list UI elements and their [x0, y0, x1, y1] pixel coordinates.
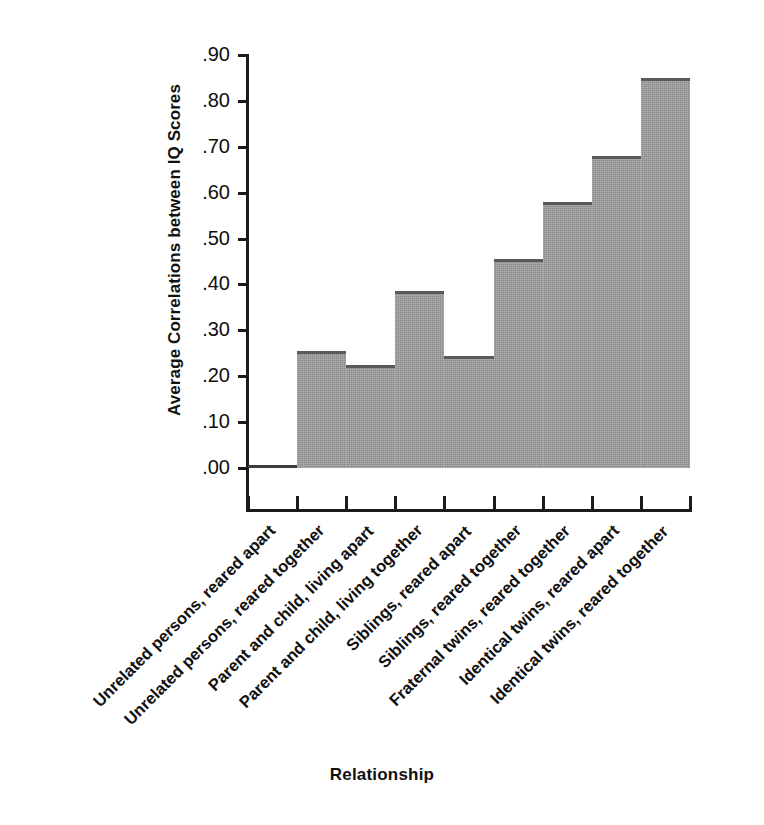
- x-axis-category-label: Unrelated persons, reared together: [121, 522, 328, 729]
- y-axis-tick: [238, 329, 248, 332]
- x-axis-tick: [591, 496, 594, 510]
- y-axis-tick: [238, 192, 248, 195]
- y-axis-tick: [238, 100, 248, 103]
- y-axis-tick-label: .30: [174, 319, 230, 339]
- plot-area: [248, 55, 690, 468]
- y-axis-tick: [238, 283, 248, 286]
- bar: [444, 356, 493, 468]
- y-axis-tick-label: .00: [174, 457, 230, 477]
- y-axis-tick-label: .70: [174, 136, 230, 156]
- bar: [592, 156, 641, 468]
- x-axis-tick: [394, 496, 397, 510]
- x-axis-tick: [689, 496, 692, 510]
- y-axis-tick-label: .50: [174, 228, 230, 248]
- bar: [346, 365, 395, 468]
- y-axis-tick: [238, 375, 248, 378]
- bar: [494, 259, 543, 468]
- bar: [543, 202, 592, 468]
- x-axis-tick: [443, 496, 446, 510]
- x-axis-spine: [246, 509, 692, 512]
- x-axis-tick: [345, 496, 348, 510]
- y-axis-tick-label: .10: [174, 411, 230, 431]
- y-axis-tick: [238, 421, 248, 424]
- y-axis-tick: [238, 467, 248, 470]
- x-axis-tick: [640, 496, 643, 510]
- y-axis-tick-label: .80: [174, 90, 230, 110]
- y-axis-tick-label: .20: [174, 365, 230, 385]
- y-axis-tick-label: .90: [174, 44, 230, 64]
- x-axis-category-label: Fraternal twins, reared together: [386, 522, 573, 709]
- x-axis-tick: [493, 496, 496, 510]
- iq-correlation-bar-chart: Average Correlations between IQ Scores .…: [0, 0, 764, 825]
- x-axis-title: Relationship: [0, 765, 764, 785]
- x-axis-tick: [296, 496, 299, 510]
- bar: [297, 351, 346, 468]
- y-axis-tick-label: .40: [174, 273, 230, 293]
- x-axis-tick: [542, 496, 545, 510]
- bar: [248, 465, 297, 468]
- bar: [641, 78, 690, 468]
- bar: [395, 291, 444, 468]
- x-axis-tick: [247, 496, 250, 510]
- y-axis-tick: [238, 146, 248, 149]
- y-axis-tick: [238, 54, 248, 57]
- y-axis-tick: [238, 238, 248, 241]
- y-axis-tick-label: .60: [174, 182, 230, 202]
